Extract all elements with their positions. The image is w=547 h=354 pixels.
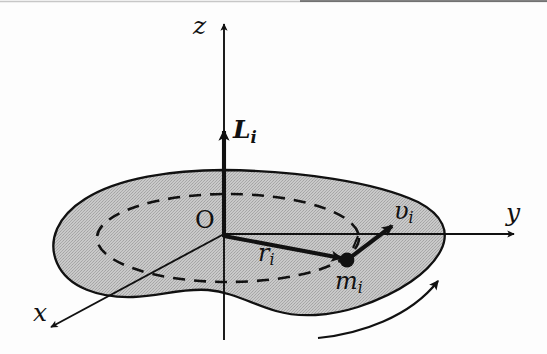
position-subscript: i — [269, 250, 274, 269]
mass-point-marker — [340, 253, 355, 268]
angular-momentum-symbol: L — [233, 115, 251, 144]
origin-label: O — [195, 208, 215, 232]
mass-subscript: i — [358, 278, 363, 297]
diagram-canvas — [0, 0, 547, 354]
angular-momentum-diagram: z Li O y υi ri mi x — [0, 0, 547, 354]
mass-symbol: m — [335, 267, 358, 295]
origin-label-text: O — [195, 206, 215, 234]
mass-label: mi — [335, 269, 363, 296]
position-label: ri — [258, 241, 275, 268]
x-axis-label-text: x — [33, 298, 47, 327]
velocity-label: υi — [394, 199, 414, 226]
z-axis-label: z — [193, 13, 206, 38]
z-axis-label-text: z — [193, 11, 206, 40]
velocity-symbol: υ — [394, 197, 409, 225]
angular-momentum-subscript: i — [251, 128, 257, 147]
y-axis-label-text: y — [506, 198, 520, 227]
position-symbol: r — [258, 239, 269, 267]
x-axis-label: x — [33, 300, 47, 325]
velocity-subscript: i — [409, 208, 414, 227]
angular-momentum-label: Li — [233, 117, 257, 146]
y-axis-label: y — [506, 200, 520, 225]
